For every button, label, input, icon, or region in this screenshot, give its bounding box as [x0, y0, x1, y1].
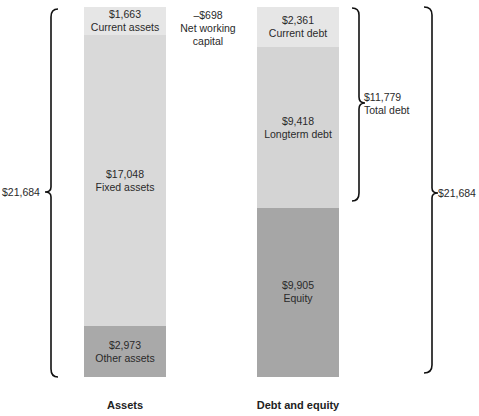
other-assets-segment: $2,973 Other assets	[84, 326, 166, 377]
net-working-capital-value: –$698	[168, 9, 248, 22]
current-assets-label: Current assets	[91, 21, 159, 34]
current-assets-value: $1,663	[109, 8, 141, 21]
total-debt-label: Total debt	[364, 104, 420, 117]
fixed-assets-value: $17,048	[106, 168, 144, 181]
current-debt-value: $2,361	[282, 14, 314, 27]
equity-segment: $9,905 Equity	[257, 208, 339, 377]
total-debt-value: $11,779	[364, 91, 420, 104]
assets-category-label: Assets	[84, 399, 166, 411]
other-assets-label: Other assets	[95, 352, 155, 365]
net-working-capital-label-1: Net working	[168, 22, 248, 35]
assets-bar: $1,663 Current assets $17,048 Fixed asse…	[84, 7, 166, 377]
assets-total-label: $21,684	[2, 186, 46, 199]
current-debt-label: Current debt	[269, 27, 327, 40]
equity-label: Equity	[283, 292, 312, 305]
equity-value: $9,905	[282, 279, 314, 292]
total-debt-annotation: $11,779 Total debt	[364, 91, 420, 117]
net-working-capital-label-2: capital	[168, 35, 248, 48]
debt-equity-category-label: Debt and equity	[240, 399, 356, 411]
other-assets-value: $2,973	[109, 339, 141, 352]
longterm-debt-value: $9,418	[282, 115, 314, 128]
debt-equity-bar: $2,361 Current debt $9,418 Longterm debt…	[257, 7, 339, 377]
current-assets-segment: $1,663 Current assets	[84, 7, 166, 35]
fixed-assets-segment: $17,048 Fixed assets	[84, 35, 166, 326]
debt-equity-total-label: $21,684	[438, 187, 479, 200]
current-debt-segment: $2,361 Current debt	[257, 7, 339, 47]
longterm-debt-segment: $9,418 Longterm debt	[257, 47, 339, 208]
net-working-capital-annotation: –$698 Net working capital	[168, 9, 248, 48]
longterm-debt-label: Longterm debt	[264, 128, 332, 141]
fixed-assets-label: Fixed assets	[96, 181, 155, 194]
